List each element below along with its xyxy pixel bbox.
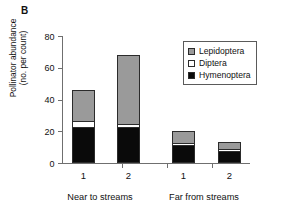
bar-near-2 <box>117 55 140 163</box>
bar-segment-lepidoptera <box>118 56 139 124</box>
legend-label-diptera: Diptera <box>199 59 227 68</box>
y-axis-title-line2: (no. per count) <box>19 31 29 85</box>
bar-segment-hymenoptera <box>219 152 240 162</box>
x-tick-1 <box>122 163 123 168</box>
legend-swatch-diptera <box>188 60 195 67</box>
bar-segment-diptera <box>73 121 94 128</box>
y-tick-label-40: 40 <box>44 95 54 105</box>
legend-item-hymenoptera: Hymenoptera <box>188 69 251 81</box>
x-axis-line <box>62 163 250 164</box>
y-tick-label-80: 80 <box>44 32 54 42</box>
x-tick-label-near-1: 1 <box>64 170 104 181</box>
y-tick-0: 0 <box>58 163 63 164</box>
x-tick-3 <box>212 163 213 168</box>
y-axis-title: Pollinator abundance (no. per count) <box>4 0 34 122</box>
legend-swatch-lepidoptera <box>188 48 195 55</box>
y-tick-80: 80 <box>58 36 63 37</box>
y-axis-line <box>62 36 63 163</box>
y-tick-40: 40 <box>58 100 63 101</box>
bar-segment-lepidoptera <box>73 91 94 121</box>
figure-panel-b: B Pollinator abundance (no. per count) 0… <box>0 0 284 217</box>
legend: Lepidoptera Diptera Hymenoptera <box>183 41 257 85</box>
y-tick-60: 60 <box>58 68 63 69</box>
bar-segment-hymenoptera <box>173 146 194 162</box>
bar-segment-hymenoptera <box>73 128 94 162</box>
legend-label-lepidoptera: Lepidoptera <box>199 47 244 56</box>
y-tick-label-0: 0 <box>49 159 54 169</box>
bar-segment-lepidoptera <box>173 132 194 142</box>
y-tick-label-60: 60 <box>44 63 54 73</box>
legend-item-lepidoptera: Lepidoptera <box>188 45 251 57</box>
bar-segment-hymenoptera <box>118 128 139 162</box>
x-tick-label-far-1: 1 <box>164 170 204 181</box>
x-tick-2 <box>167 163 168 168</box>
bar-far-1 <box>172 131 195 163</box>
x-tick-label-near-2: 2 <box>109 170 149 181</box>
legend-swatch-hymenoptera <box>188 72 195 79</box>
x-group-label-near: Near to streams <box>50 192 150 202</box>
y-tick-20: 20 <box>58 131 63 132</box>
legend-label-hymenoptera: Hymenoptera <box>199 71 251 80</box>
bar-near-1 <box>72 90 95 163</box>
x-tick-label-far-2: 2 <box>210 170 250 181</box>
y-tick-label-20: 20 <box>44 127 54 137</box>
bar-far-2 <box>218 142 241 163</box>
x-group-label-far: Far from streams <box>154 192 254 202</box>
legend-item-diptera: Diptera <box>188 57 251 69</box>
